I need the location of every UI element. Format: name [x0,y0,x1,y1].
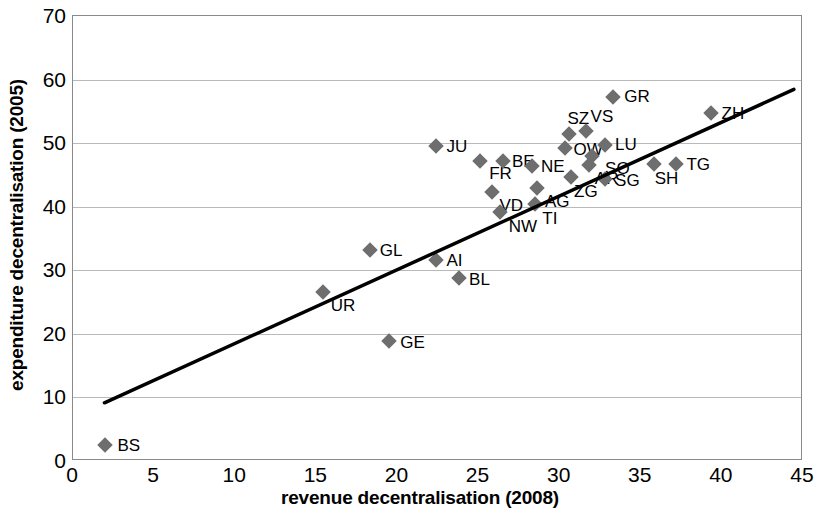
scatter-chart: expenditure decentralisation (2005) 0102… [0,0,840,522]
data-point-marker[interactable] [484,184,500,200]
gridline [73,80,801,81]
data-point-label: TG [686,156,710,173]
y-tick-label: 40 [2,196,66,217]
data-point-label: BS [117,437,140,454]
data-point-marker[interactable] [429,138,445,154]
plot-area: BSURGLGEAIJUBLFRBEVDNWNEAGTIOWSZZGVSARSG… [72,15,802,460]
x-tick-label: 10 [204,464,264,485]
data-point-marker[interactable] [703,105,719,121]
data-point-label: TI [542,209,557,226]
data-point-label: GL [380,241,403,258]
data-point-label: ZH [722,104,745,121]
data-point-label: UR [331,296,356,313]
x-tick-label: 30 [529,464,589,485]
data-point-marker[interactable] [315,284,331,300]
data-point-marker[interactable] [472,153,488,169]
data-point-label: NW [509,218,537,235]
y-tick-label: 30 [2,259,66,280]
y-tick-label: 50 [2,132,66,153]
gridline [73,397,801,398]
gridline [73,334,801,335]
data-point-label: SH [655,170,679,187]
data-point-marker[interactable] [382,333,398,349]
gridline [73,270,801,271]
data-point-label: AI [446,252,462,269]
y-tick-label: 20 [2,323,66,344]
y-axis-tick-labels: 010203040506070 [0,0,66,470]
data-point-label: JU [446,137,467,154]
y-tick-label: 60 [2,69,66,90]
x-tick-label: 35 [610,464,670,485]
data-point-marker[interactable] [362,242,378,258]
data-point-label: SO [605,159,630,176]
x-tick-label: 40 [691,464,751,485]
data-point-label: GR [624,87,650,104]
data-point-label: VS [591,108,614,125]
data-point-marker[interactable] [528,196,544,212]
x-tick-label: 15 [285,464,345,485]
data-point-label: NE [541,158,565,175]
x-tick-label: 20 [366,464,426,485]
data-point-marker[interactable] [451,270,467,286]
y-tick-label: 10 [2,386,66,407]
data-point-label: BL [469,270,490,287]
x-tick-label: 0 [42,464,102,485]
data-point-marker[interactable] [605,89,621,105]
x-axis-title: revenue decentralisation (2008) [0,487,840,509]
data-point-label: LU [615,136,637,153]
data-point-marker[interactable] [98,437,114,453]
y-tick-label: 70 [2,5,66,26]
data-point-label: AG [545,192,570,209]
data-point-marker[interactable] [429,252,445,268]
data-point-label: GE [400,333,425,350]
x-tick-label: 45 [772,464,832,485]
data-point-marker[interactable] [529,180,545,196]
x-tick-label: 25 [448,464,508,485]
x-tick-label: 5 [123,464,183,485]
gridline [73,207,801,208]
